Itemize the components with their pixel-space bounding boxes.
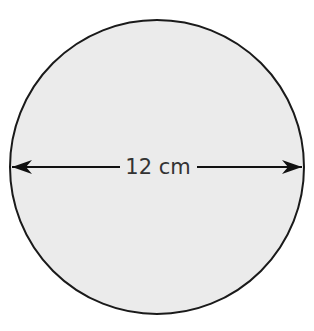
- circle-diagram: 12 cm: [0, 0, 314, 331]
- diameter-label: 12 cm: [125, 155, 190, 179]
